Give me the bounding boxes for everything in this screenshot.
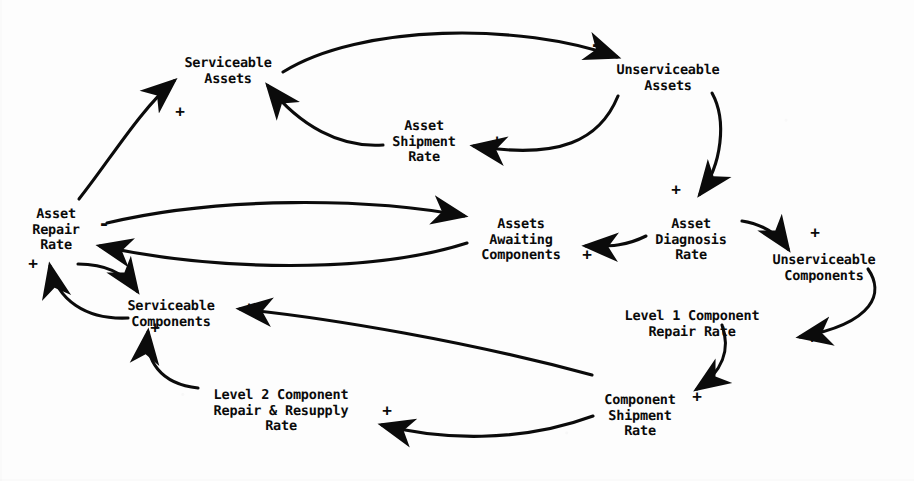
edge-level2-component-repair-resupply-rate-to-serviceable-components bbox=[148, 332, 198, 388]
polarity-sign-e8: + bbox=[582, 247, 592, 263]
edge-unserviceable-assets-to-asset-diagnosis-rate bbox=[700, 93, 721, 194]
node-asset-shipment-rate: Asset Shipment Rate bbox=[392, 119, 455, 166]
edge-component-shipment-rate-to-level2-component-repair-resupply-rate bbox=[382, 416, 593, 436]
polarity-sign-e9: + bbox=[810, 225, 820, 241]
polarity-sign-e14: + bbox=[692, 389, 702, 405]
node-serviceable-comp: Serviceable Components bbox=[127, 299, 214, 330]
polarity-sign-e5: + bbox=[671, 182, 681, 198]
polarity-sign-e16: + bbox=[382, 403, 392, 419]
edge-asset-repair-rate-to-serviceable-assets bbox=[79, 81, 174, 199]
polarity-sign-e11: - bbox=[122, 271, 133, 287]
polarity-sign-e1: - bbox=[590, 36, 601, 52]
edge-asset-repair-rate-to-assets-awaiting-components bbox=[107, 203, 464, 223]
node-asset-diagnosis-rate: Asset Diagnosis Rate bbox=[655, 217, 726, 264]
node-asset-repair-rate: Asset Repair Rate bbox=[32, 207, 80, 254]
node-level1-repair-rate: Level 1 Component Repair Rate bbox=[625, 309, 760, 340]
node-unserviceable-assets: Unserviceable Assets bbox=[616, 63, 719, 94]
polarity-sign-e10: + bbox=[28, 256, 38, 272]
polarity-sign-e3: + bbox=[492, 133, 502, 149]
node-unserviceable-comp: Unserviceable Components bbox=[772, 253, 875, 284]
node-assets-awaiting: Assets Awaiting Components bbox=[481, 217, 560, 264]
causal-loop-diagram: Serviceable AssetsUnserviceable AssetsAs… bbox=[0, 0, 914, 481]
polarity-sign-e6: - bbox=[98, 215, 109, 231]
edge-component-shipment-rate-to-serviceable-components bbox=[240, 309, 592, 375]
node-serviceable-assets: Serviceable Assets bbox=[184, 56, 271, 87]
edge-asset-diagnosis-rate-to-unserviceable-components bbox=[742, 221, 788, 249]
node-component-shipment: Component Shipment Rate bbox=[604, 393, 675, 440]
edge-asset-diagnosis-rate-to-assets-awaiting-components bbox=[586, 236, 646, 246]
polarity-sign-e2: - bbox=[284, 91, 295, 107]
polarity-sign-e15: + bbox=[150, 320, 160, 336]
edge-layer bbox=[0, 0, 914, 481]
polarity-sign-e13: + bbox=[244, 300, 254, 316]
edge-assets-awaiting-components-to-asset-repair-rate bbox=[100, 243, 467, 266]
edge-serviceable-assets-to-unserviceable-assets bbox=[283, 33, 617, 72]
node-level2-repair-rate: Level 2 Component Repair & Resupply Rate bbox=[214, 388, 349, 435]
polarity-sign-e12: + bbox=[807, 330, 817, 346]
polarity-sign-e4: + bbox=[175, 104, 185, 120]
